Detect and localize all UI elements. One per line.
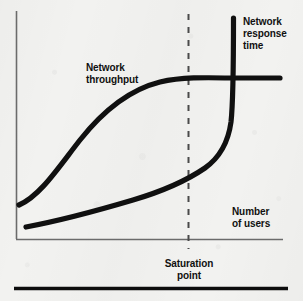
x-axis-label: Number of users — [232, 206, 270, 230]
network-performance-figure: Network response time Network throughput… — [0, 0, 303, 301]
saturation-point-label: Saturation point — [160, 258, 218, 282]
network-throughput-label: Network throughput — [86, 62, 138, 86]
network-throughput-curve — [19, 78, 280, 205]
network-response-time-label: Network response time — [243, 16, 287, 52]
network-response-time-curve — [26, 18, 234, 227]
